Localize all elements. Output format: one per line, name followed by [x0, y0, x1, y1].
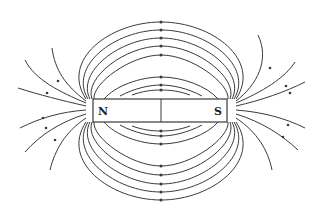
north-pole-label: N [98, 105, 108, 118]
south-pole-label: S [214, 105, 222, 118]
bar-magnet: N S [93, 99, 227, 122]
magnet-body [93, 99, 227, 122]
upper-field-lines [79, 22, 243, 99]
right-open-field-lines [236, 35, 305, 170]
lower-field-lines [79, 122, 243, 200]
bar-magnet-field-diagram: N S [0, 0, 323, 222]
left-open-field-lines [18, 48, 86, 170]
